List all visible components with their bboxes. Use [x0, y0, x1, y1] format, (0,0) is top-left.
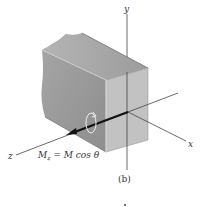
- dot: [124, 204, 126, 206]
- moment-label: Mz = M cos θ: [37, 150, 100, 161]
- y-axis-label: y: [123, 4, 130, 14]
- figure-diagram: y x z Mz = M cos θ (b): [0, 0, 202, 207]
- figure-caption: (b): [118, 174, 131, 184]
- z-axis-label: z: [7, 151, 13, 161]
- x-axis-label: x: [188, 139, 193, 149]
